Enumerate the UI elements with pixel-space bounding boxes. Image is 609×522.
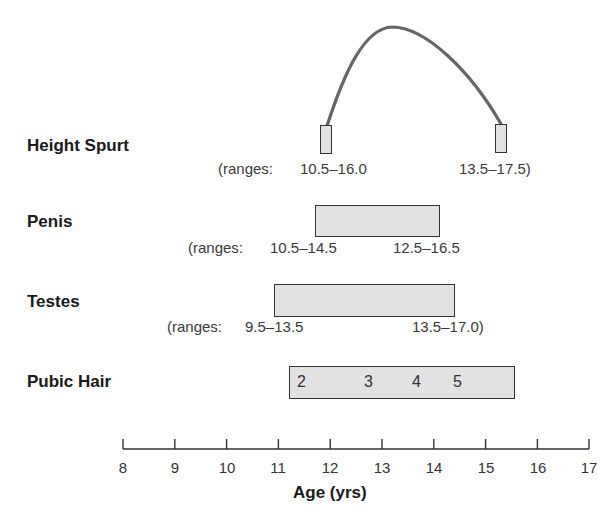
- tick-label-16: 16: [530, 459, 547, 477]
- pubic-hair-stage-5: 5: [453, 373, 462, 391]
- height-spurt-range-first: 10.5–16.0: [300, 160, 367, 178]
- row-label-testes: Testes: [27, 292, 80, 312]
- tick-label-9: 9: [171, 459, 179, 477]
- penis-range-second: 12.5–16.5: [393, 239, 460, 257]
- tick-label-10: 10: [219, 459, 236, 477]
- tick-label-17: 17: [581, 459, 598, 477]
- height-spurt-range-prefix: (ranges:: [218, 160, 273, 178]
- tick-label-13: 13: [374, 459, 391, 477]
- testes-range-second: 13.5–17.0): [412, 318, 484, 336]
- testes-bar: [274, 284, 455, 317]
- testes-range-first: 9.5–13.5: [245, 318, 303, 336]
- row-label-penis: Penis: [27, 212, 72, 232]
- testes-range-prefix: (ranges:: [167, 318, 222, 336]
- height-spurt-end-bar: [495, 124, 507, 153]
- penis-range-prefix: (ranges:: [188, 239, 243, 257]
- tick-label-12: 12: [322, 459, 339, 477]
- tick-label-15: 15: [478, 459, 495, 477]
- row-label-height-spurt: Height Spurt: [27, 136, 129, 156]
- height-spurt-start-bar: [320, 125, 332, 154]
- chart-graphics: [0, 0, 609, 522]
- height-spurt-range-second: 13.5–17.5): [459, 160, 531, 178]
- tick-label-8: 8: [119, 459, 127, 477]
- x-axis-ticks: [123, 439, 589, 449]
- tick-label-14: 14: [426, 459, 443, 477]
- height-spurt-curve: [327, 27, 501, 126]
- penis-bar: [315, 205, 440, 237]
- pubic-hair-stage-3: 3: [364, 373, 373, 391]
- tick-label-11: 11: [270, 459, 286, 477]
- penis-range-first: 10.5–14.5: [270, 239, 337, 257]
- pubic-hair-stage-2: 2: [297, 373, 306, 391]
- row-label-pubic-hair: Pubic Hair: [27, 372, 111, 392]
- x-axis-title: Age (yrs): [293, 483, 367, 503]
- pubic-hair-bar: [289, 366, 515, 399]
- pubic-hair-stage-4: 4: [412, 373, 421, 391]
